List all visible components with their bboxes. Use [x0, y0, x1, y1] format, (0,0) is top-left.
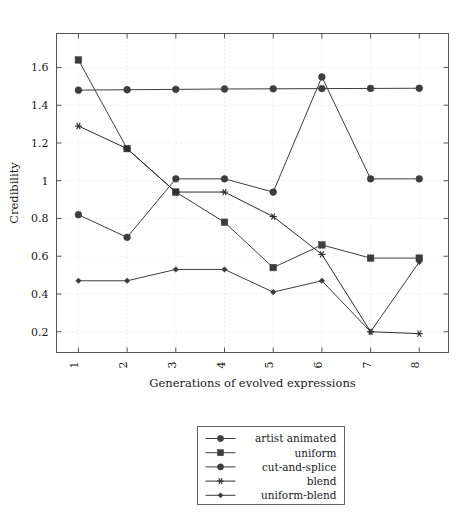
series-line [78, 126, 419, 334]
y-tick-labels: 0.20.40.60.811.21.41.6 [31, 61, 49, 338]
x-tick-label: 8 [409, 362, 422, 369]
data-point-marker [217, 435, 223, 441]
y-tick-label: 0.4 [31, 288, 49, 301]
y-tick-label: 0.6 [31, 250, 49, 263]
y-tick-label: 1 [42, 175, 49, 188]
data-point-marker [124, 234, 131, 241]
y-axis-title: Credibility [7, 162, 21, 224]
data-point-marker [75, 57, 82, 64]
data-point-marker [318, 74, 325, 81]
data-point-marker [367, 85, 374, 92]
y-tick-label: 1.6 [31, 61, 49, 74]
chart-legend: artist animateduniformcut-and-spliceblen… [198, 427, 345, 505]
data-point-marker [75, 123, 82, 129]
data-point-marker [217, 450, 223, 456]
x-tick-label: 7 [361, 362, 374, 369]
x-tick-label: 5 [263, 362, 276, 369]
y-tick-label: 1.2 [31, 137, 49, 150]
data-point-marker [318, 85, 325, 92]
y-tick-label: 0.8 [31, 212, 49, 225]
credibility-line-chart: 0.20.40.60.811.21.41.6 12345678 Generati… [0, 0, 468, 521]
data-point-marker [416, 85, 423, 92]
x-tick-label: 3 [166, 362, 179, 369]
series-line [78, 77, 419, 237]
data-point-marker [222, 267, 228, 273]
data-point-marker [172, 86, 179, 93]
legend-label: artist animated [255, 432, 337, 444]
data-point-marker [173, 267, 179, 273]
data-point-marker [124, 278, 130, 284]
data-point-marker [270, 289, 276, 295]
series-line [78, 262, 419, 332]
legend-label: uniform [294, 447, 336, 459]
legend-label: uniform-blend [261, 489, 337, 501]
legend-label: cut-and-splice [262, 461, 337, 473]
data-point-marker [270, 264, 277, 271]
series-artist-animated [75, 85, 423, 94]
data-point-marker [319, 242, 326, 249]
series-cut-and-splice [75, 74, 423, 241]
series-uniform-blend [76, 259, 422, 334]
data-point-marker [367, 175, 374, 182]
data-point-marker [76, 278, 82, 284]
x-tick-label: 1 [68, 362, 81, 369]
chart-figure: 0.20.40.60.811.21.41.6 12345678 Generati… [0, 0, 468, 521]
data-series [75, 57, 423, 337]
data-point-marker [172, 175, 179, 182]
data-point-marker [75, 87, 82, 94]
data-point-marker [416, 175, 423, 182]
x-tick-label: 2 [117, 362, 130, 369]
data-point-marker [124, 86, 131, 93]
x-tick-label: 6 [312, 362, 325, 369]
data-point-marker [270, 189, 277, 196]
x-axis-title: Generations of evolved expressions [149, 376, 356, 390]
y-tick-label: 1.4 [31, 99, 49, 112]
x-tick-label: 4 [215, 362, 228, 369]
legend-label: blend [307, 475, 337, 487]
x-tick-labels: 12345678 [68, 362, 422, 369]
y-tick-label: 0.2 [31, 326, 49, 339]
data-point-marker [367, 255, 374, 262]
data-point-marker [221, 219, 228, 226]
data-point-marker [75, 211, 82, 218]
data-point-marker [221, 175, 228, 182]
data-point-marker [217, 464, 223, 470]
data-point-marker [270, 85, 277, 92]
data-point-marker [221, 86, 228, 93]
